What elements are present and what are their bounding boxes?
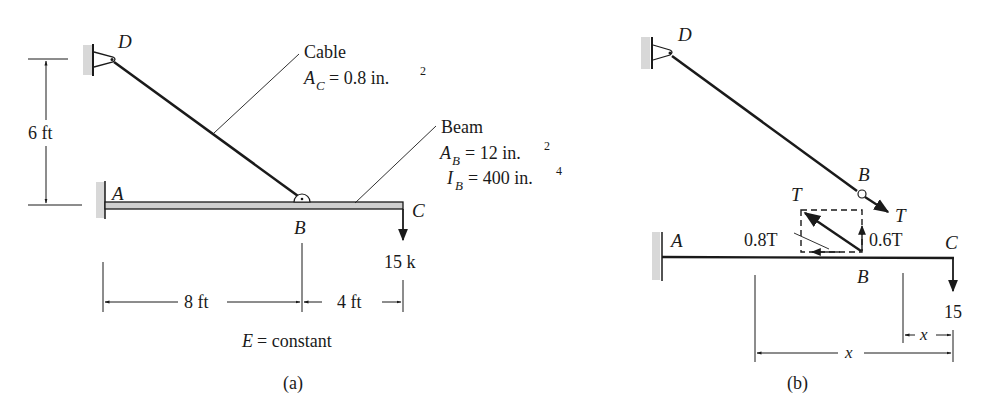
dimension-6ft: 6 ft <box>28 59 82 205</box>
label-point-b-top: B <box>858 164 870 185</box>
label-point-a: A <box>110 183 124 204</box>
svg-text:B: B <box>455 178 463 193</box>
svg-text:C: C <box>316 78 325 93</box>
x-long-label: x <box>844 343 853 362</box>
beam-inertia-annotation: I B = 400 in. 4 <box>446 164 562 193</box>
svg-text:I: I <box>446 168 454 188</box>
caption-a: (a) <box>283 373 303 394</box>
diagram-canvas: D Cable A C = 0.8 in. 2 6 ft A <box>0 0 982 417</box>
svg-text:= 400 in.: = 400 in. <box>468 168 533 188</box>
modulus-symbol: E <box>241 331 253 351</box>
svg-text:A: A <box>439 143 452 163</box>
svg-text:= 12 in.: = 12 in. <box>465 143 521 163</box>
cable-line <box>672 56 857 191</box>
force-components <box>794 210 862 252</box>
dimension-spans: 8 ft 4 ft <box>103 243 403 312</box>
beam-leader-line <box>355 126 436 203</box>
figure-a: D Cable A C = 0.8 in. 2 6 ft A <box>28 31 562 394</box>
dimension-x: x x <box>755 273 953 362</box>
label-point-c: C <box>945 232 958 253</box>
svg-text:A: A <box>303 68 316 88</box>
load-15k-label: 15 k <box>384 252 416 272</box>
label-point-d: D <box>677 24 692 45</box>
dimension-4ft-label: 4 ft <box>337 292 362 312</box>
cable-leader-line <box>214 54 299 133</box>
svg-text:B: B <box>452 153 460 168</box>
load-15-label: 15 <box>944 302 962 322</box>
beam-label: Beam <box>441 117 483 137</box>
pin-support-d-icon <box>83 44 115 76</box>
tension-label-cable: T <box>895 205 907 226</box>
svg-text:4: 4 <box>556 164 562 178</box>
caption-b: (b) <box>787 373 808 394</box>
tension-label-top: T <box>791 184 803 205</box>
label-point-b-bottom: B <box>857 266 869 287</box>
dimension-6ft-label: 6 ft <box>28 123 53 143</box>
beam-member <box>105 202 403 209</box>
x-short-label: x <box>919 325 928 344</box>
beam-line <box>662 257 954 258</box>
cable-line <box>114 62 298 196</box>
fixed-support-a-icon <box>96 181 105 219</box>
label-point-b: B <box>294 217 306 238</box>
svg-text:2: 2 <box>420 64 426 78</box>
beam-area-annotation: A B = 12 in. 2 <box>439 139 550 168</box>
figure-b: D B T T 0.8T 0.6T A C 15 B <box>641 24 962 394</box>
vertical-component-label: 0.6T <box>869 230 903 250</box>
label-point-a: A <box>669 230 683 251</box>
svg-text:= 0.8 in.: = 0.8 in. <box>329 68 389 88</box>
cable-end-b-icon <box>858 190 866 198</box>
cable-area-annotation: A C = 0.8 in. 2 <box>303 64 426 93</box>
tension-arrow-cable-icon <box>865 197 888 212</box>
dimension-8ft-label: 8 ft <box>184 292 209 312</box>
structural-diagram: D Cable A C = 0.8 in. 2 6 ft A <box>0 0 982 417</box>
svg-text:2: 2 <box>544 139 550 153</box>
fixed-support-a-icon <box>652 232 662 281</box>
tension-arrow-beam-icon <box>805 213 861 251</box>
pin-support-d-icon <box>641 37 672 69</box>
label-point-d: D <box>117 31 132 52</box>
horizontal-component-label: 0.8T <box>744 230 778 250</box>
label-point-c: C <box>412 200 425 221</box>
modulus-text: = constant <box>257 331 332 351</box>
cable-label: Cable <box>304 42 346 62</box>
